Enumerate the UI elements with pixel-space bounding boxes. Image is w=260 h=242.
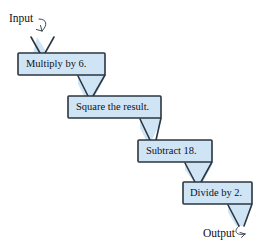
input-arrow-curve: [39, 19, 46, 31]
input-arrow-head: [37, 26, 43, 32]
step-box-2-label: Square the result.: [76, 101, 149, 112]
output-funnel: [228, 203, 252, 226]
step-box-4-label: Divide by 2.: [190, 187, 242, 198]
output-arrow: [236, 226, 245, 238]
input-arrow: [37, 19, 46, 31]
step-box-2[interactable]: Square the result.: [68, 96, 161, 118]
input-label: Input: [9, 12, 34, 25]
chute-2-to-3: [140, 117, 161, 140]
flowchart-canvas: Multiply by 6. Square the result. Subtra…: [0, 0, 260, 242]
flowchart-diagram: Multiply by 6. Square the result. Subtra…: [0, 0, 260, 242]
step-box-1-label: Multiply by 6.: [26, 58, 86, 69]
step-box-4[interactable]: Divide by 2.: [183, 182, 252, 204]
output-label: Output: [203, 227, 236, 240]
step-box-1[interactable]: Multiply by 6.: [18, 53, 105, 75]
chute-3-to-4: [185, 161, 212, 182]
step-box-3-label: Subtract 18.: [146, 145, 197, 156]
step-box-3[interactable]: Subtract 18.: [138, 140, 212, 162]
output-arrow-head: [240, 233, 245, 238]
chute-1-to-2: [78, 74, 105, 96]
